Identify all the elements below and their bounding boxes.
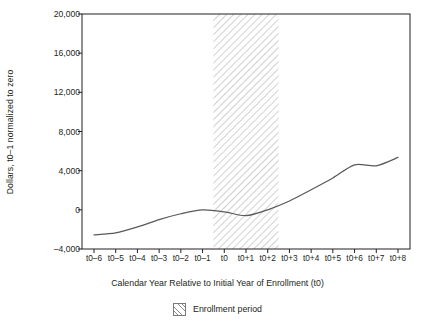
x-axis-tick-label: t0–2	[173, 253, 189, 263]
enrollment-period-swatch-icon	[173, 303, 186, 316]
x-axis-tick-label: t0+7	[368, 253, 384, 263]
chart-figure: Dollars, t0–1 normalized to zero –4,0000…	[0, 0, 435, 331]
x-axis-tick-label: t0+2	[260, 253, 276, 263]
x-axis-tick-label: t0–3	[151, 253, 167, 263]
x-axis-tick-label: t0–4	[129, 253, 145, 263]
x-axis-tick-label: t0+8	[390, 253, 406, 263]
chart-legend: Enrollment period	[0, 303, 435, 316]
x-axis-tick-label: t0–1	[194, 253, 210, 263]
x-axis-tick-label: t0	[221, 253, 228, 263]
legend-item-label: Enrollment period	[193, 305, 262, 314]
x-axis-tick-label: t0+1	[238, 253, 254, 263]
x-axis-tick-label: t0+4	[303, 253, 319, 263]
x-axis-title: Calendar Year Relative to Initial Year o…	[0, 278, 435, 288]
x-axis-tick-label: t0+6	[346, 253, 362, 263]
x-axis-tick-label: t0–5	[108, 253, 124, 263]
x-axis-tick-label: t0–6	[86, 253, 102, 263]
x-axis-tick-label: t0+5	[325, 253, 341, 263]
x-axis-tick-label: t0+3	[281, 253, 297, 263]
